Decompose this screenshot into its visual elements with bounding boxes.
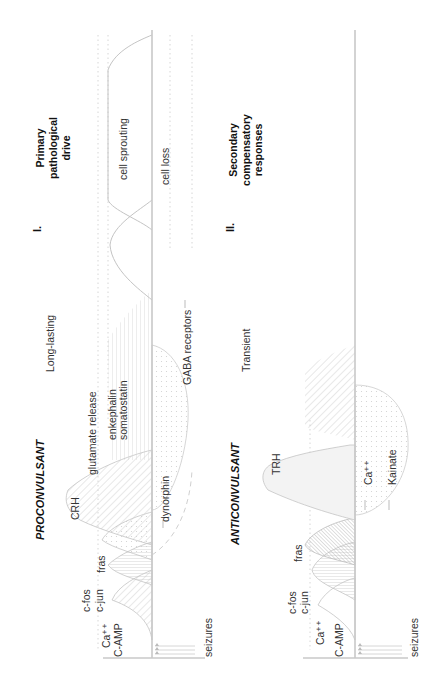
label-cfos: c-fos	[80, 589, 92, 612]
label-crh: CRH	[69, 497, 81, 520]
label-glutamate-release: glutamate release	[86, 391, 98, 475]
label-camp: C-AMP	[333, 623, 345, 657]
label-cell-loss: cell loss	[159, 148, 171, 185]
label-ca-below: Ca⁺⁺	[362, 460, 374, 485]
panel-I-heading-2: pathological	[47, 117, 59, 179]
label-cjun: c-jun	[93, 589, 105, 612]
cell-sprouting-curve	[108, 35, 152, 230]
label-somatostatin: somatostatin	[117, 380, 129, 440]
label-cjun: c-jun	[298, 591, 310, 614]
label-trh: TRH	[270, 453, 282, 475]
sprouting-wave	[110, 200, 152, 300]
panel-I-numeral: I.	[31, 226, 43, 232]
panel-II-heading-1: Secondary	[227, 123, 239, 177]
seizure-arrows	[155, 643, 195, 654]
label-gaba-receptors: GABA receptors	[181, 310, 193, 385]
panel-II-duration: Transient	[240, 329, 252, 372]
fras-hump	[305, 518, 355, 565]
label-camp: C-AMP	[112, 623, 124, 657]
panel-II-numeral: II.	[224, 223, 236, 232]
seizure-response-diagram: I. Primary pathological drive PROCONVULS…	[0, 0, 443, 690]
label-kainate: Kainate	[386, 449, 398, 485]
label-ca: Ca⁺⁺	[314, 620, 326, 645]
panel-primary-pathological-drive: I. Primary pathological drive PROCONVULS…	[31, 30, 214, 658]
panel-II-heading-3: responses	[252, 124, 264, 177]
panel-II-category: ANTICONVULSANT	[229, 442, 241, 546]
panel-I-duration: Long-lasting	[44, 315, 56, 372]
label-ca: Ca⁺⁺	[100, 623, 112, 648]
seizure-arrows	[358, 643, 402, 654]
panel-I-category: PROCONVULSANT	[34, 438, 46, 540]
label-fras: fras	[95, 555, 107, 573]
panel-II-heading-2: compensatory	[240, 114, 252, 186]
label-fras: fras	[292, 544, 304, 562]
label-dynorphin: dynorphin	[159, 476, 171, 522]
kainate-area	[355, 385, 408, 515]
label-cell-sprouting: cell sprouting	[117, 118, 129, 180]
transient-block	[305, 345, 355, 440]
label-cfos: c-fos	[286, 591, 298, 614]
panel-I-heading-3: drive	[60, 135, 72, 160]
panel-I-heading-1: Primary	[34, 128, 46, 167]
panel-secondary-compensatory-responses: II. Secondary compensatory responses ANT…	[224, 30, 420, 658]
label-seizures: seizures	[408, 618, 420, 657]
label-seizures: seizures	[202, 618, 214, 657]
